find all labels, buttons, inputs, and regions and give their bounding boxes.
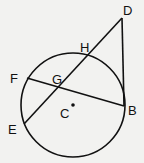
secant-de <box>24 18 122 124</box>
label-c: C <box>60 106 69 121</box>
label-h: H <box>80 40 89 55</box>
label-g: G <box>52 72 62 87</box>
geometry-diagram: D H G F E B C <box>0 0 144 163</box>
label-d: D <box>123 3 132 18</box>
diagram-svg: D H G F E B C <box>0 0 144 163</box>
chord-fb <box>27 78 124 106</box>
label-b: B <box>128 103 137 118</box>
center-dot <box>71 103 75 107</box>
tangent-db <box>122 18 124 106</box>
label-f: F <box>10 71 18 86</box>
label-e: E <box>8 122 17 137</box>
